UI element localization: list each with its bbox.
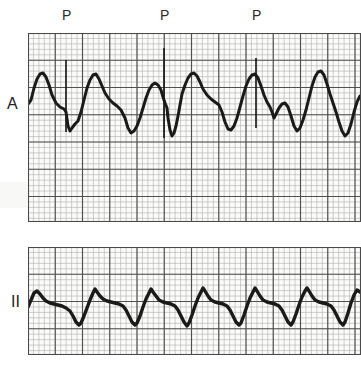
pacing-marker-2: P xyxy=(160,8,169,22)
ecg-figure: PPP A II xyxy=(0,0,361,367)
strip-a-canvas xyxy=(28,33,361,222)
lead-label-a: A xyxy=(7,96,18,112)
paper-artifact xyxy=(0,182,30,208)
pacing-marker-1: P xyxy=(62,8,71,22)
pacing-marker-3: P xyxy=(252,8,261,22)
lead-label-ii: II xyxy=(11,294,20,310)
rhythm-strip-ii xyxy=(28,247,361,355)
strip-ii-canvas xyxy=(28,247,361,355)
rhythm-strip-a xyxy=(28,33,361,222)
